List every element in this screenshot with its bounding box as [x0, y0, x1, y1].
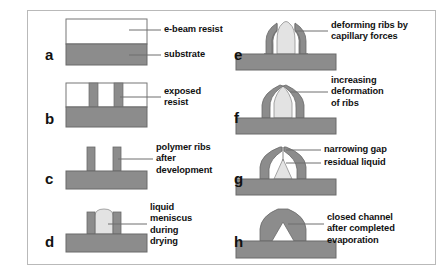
- callout-closed-channel: closed channel after completed evaporati…: [327, 212, 395, 246]
- callout-narrowing-gap: narrowing gap: [324, 144, 387, 155]
- callout-deforming-ribs: deforming ribs by capillary forces: [331, 20, 408, 43]
- panel-c-letter: c: [45, 171, 53, 186]
- callout-substrate: substrate: [164, 49, 205, 60]
- substrate-layer: [236, 54, 336, 70]
- process-flow-figure: a e-beam resist substrate b: [0, 0, 443, 275]
- panel-e-letter: e: [234, 47, 242, 62]
- exposed-resist-bar-left: [89, 83, 98, 107]
- panel-b-letter: b: [45, 111, 54, 126]
- closed-channel-structure: [260, 209, 306, 241]
- e-beam-resist-layer: [66, 19, 147, 44]
- figure-frame: a e-beam resist substrate b: [27, 10, 436, 265]
- panel-a: a e-beam resist substrate: [28, 11, 228, 75]
- panel-g-letter: g: [234, 171, 243, 186]
- substrate-layer: [66, 234, 147, 252]
- callout-residual-liquid: residual liquid: [324, 157, 386, 168]
- callout-exposed-resist: exposed resist: [164, 86, 201, 109]
- panel-f-letter: f: [234, 110, 239, 125]
- polymer-rib-right: [113, 212, 121, 234]
- panel-a-drawing: [28, 11, 228, 75]
- liquid-meniscus: [95, 209, 113, 234]
- callout-liquid-meniscus: liquid meniscus during drying: [150, 202, 192, 248]
- substrate-layer: [236, 179, 336, 195]
- panel-f: f increasing deformation of ribs: [228, 75, 435, 137]
- callout-increasing-deformation: increasing deformation of ribs: [331, 75, 384, 109]
- panel-g: g narrowing gap residual liquid: [228, 137, 435, 200]
- panel-c: c polymer ribs after development: [28, 137, 228, 200]
- liquid-column: [277, 22, 295, 55]
- substrate-layer: [236, 118, 336, 134]
- panel-d: d liquid meniscus during drying: [28, 200, 228, 264]
- panel-h-letter: h: [234, 234, 243, 249]
- panel-a-letter: a: [45, 47, 53, 62]
- panel-b: b exposed resist: [28, 75, 228, 137]
- rib-body-left: [266, 23, 277, 54]
- residual-liquid: [274, 159, 292, 179]
- rib-body-right: [295, 23, 306, 54]
- panel-d-letter: d: [45, 234, 54, 249]
- substrate-layer: [66, 107, 147, 127]
- substrate-layer: [236, 241, 336, 258]
- polymer-rib-left: [87, 212, 95, 234]
- callout-e-beam-resist: e-beam resist: [164, 24, 223, 35]
- exposed-resist-bar-right: [114, 83, 123, 107]
- panel-e: e deforming ribs by capillary forces: [228, 11, 435, 75]
- polymer-rib-left: [87, 147, 95, 171]
- resist-layer: [66, 83, 147, 107]
- substrate-layer: [66, 171, 147, 189]
- callout-polymer-ribs: polymer ribs after development: [156, 142, 212, 176]
- panel-d-drawing: [28, 200, 228, 264]
- panel-h: h closed channel after completed evapora…: [228, 200, 435, 264]
